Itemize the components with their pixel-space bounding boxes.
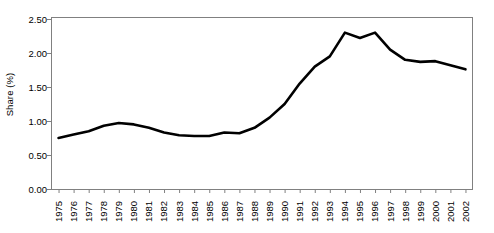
x-axis-tick-label-text: 1994 — [339, 201, 350, 222]
data-series-line — [59, 33, 466, 138]
x-axis-tick-label: 1997 — [384, 192, 396, 232]
x-axis-tick-label: 1994 — [339, 192, 351, 232]
x-axis-tick-label: 1999 — [414, 192, 426, 232]
x-axis-tick-label-text: 2002 — [460, 201, 471, 222]
x-axis-tick-label: 2002 — [459, 192, 471, 232]
x-axis-tick-label: 1988 — [248, 192, 260, 232]
x-axis-tick-label-text: 1995 — [354, 201, 365, 222]
x-axis-tick-label-text: 1986 — [219, 201, 230, 222]
x-axis-tick-label: 1990 — [279, 192, 291, 232]
x-axis-tick-label: 1979 — [113, 192, 125, 232]
x-axis-tick-label-text: 1993 — [324, 201, 335, 222]
x-axis-tick-label: 1989 — [264, 192, 276, 232]
x-axis-tick-label: 1981 — [143, 192, 155, 232]
x-axis-tick-label: 1986 — [218, 192, 230, 232]
x-axis-tick-label: 1980 — [128, 192, 140, 232]
x-axis-tick-label-text: 1975 — [53, 201, 64, 222]
x-axis-tick-label-text: 1979 — [113, 201, 124, 222]
x-axis-tick-label: 1984 — [188, 192, 200, 232]
x-axis-tick-labels: 1975197619771978197919801981198219831984… — [0, 192, 494, 233]
x-axis-tick-label: 1987 — [233, 192, 245, 232]
x-axis-tick-label-text: 1991 — [294, 201, 305, 222]
x-axis-tick-label-text: 1977 — [83, 201, 94, 222]
x-axis-tick-label-text: 1980 — [128, 201, 139, 222]
x-axis-tick-label: 1993 — [324, 192, 336, 232]
x-axis-tick-label: 1991 — [294, 192, 306, 232]
x-axis-tick-label-text: 1983 — [174, 201, 185, 222]
y-axis-ticks — [47, 20, 51, 190]
x-axis-tick-label: 1985 — [203, 192, 215, 232]
x-axis-tick-label: 1996 — [369, 192, 381, 232]
x-axis-tick-label: 1978 — [98, 192, 110, 232]
x-axis-tick-label: 1975 — [53, 192, 65, 232]
x-axis-tick-label: 1998 — [399, 192, 411, 232]
x-axis-tick-label-text: 1978 — [98, 201, 109, 222]
axis-lines — [51, 17, 473, 190]
x-axis-tick-label: 1995 — [354, 192, 366, 232]
x-axis-tick-label-text: 1997 — [385, 201, 396, 222]
x-axis-tick-label-text: 1992 — [309, 201, 320, 222]
x-axis-tick-label-text: 1987 — [234, 201, 245, 222]
x-axis-tick-label: 1977 — [83, 192, 95, 232]
x-axis-tick-label-text: 1990 — [279, 201, 290, 222]
x-axis-tick-label-text: 1998 — [400, 201, 411, 222]
x-axis-tick-label-text: 1981 — [143, 201, 154, 222]
x-axis-tick-label-text: 1996 — [370, 201, 381, 222]
x-axis-tick-label-text: 1988 — [249, 201, 260, 222]
x-axis-tick-label: 1976 — [68, 192, 80, 232]
x-axis-tick-label: 1992 — [309, 192, 321, 232]
x-axis-tick-label-text: 2000 — [430, 201, 441, 222]
x-axis-tick-label-text: 1985 — [204, 201, 215, 222]
line-chart-figure: Share (%) 0.000.501.001.502.002.50 19751… — [0, 0, 494, 233]
x-axis-tick-label-text: 2001 — [445, 201, 456, 222]
x-axis-tick-label-text: 1999 — [415, 201, 426, 222]
x-axis-tick-label-text: 1982 — [159, 201, 170, 222]
x-axis-tick-label: 2001 — [444, 192, 456, 232]
x-axis-tick-label-text: 1984 — [189, 201, 200, 222]
x-axis-tick-label-text: 1976 — [68, 201, 79, 222]
x-axis-tick-label: 1982 — [158, 192, 170, 232]
x-axis-tick-label-text: 1989 — [264, 201, 275, 222]
x-axis-tick-label: 1983 — [173, 192, 185, 232]
x-axis-tick-label: 2000 — [429, 192, 441, 232]
